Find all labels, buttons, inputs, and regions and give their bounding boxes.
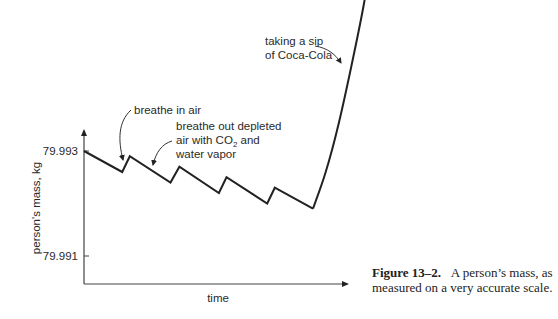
annotation-sip-line1: taking a sip xyxy=(265,35,323,47)
annotation-breathe-out-line2: air with CO2 and xyxy=(176,134,260,149)
annotation-sip-line2: of Coca-Cola xyxy=(265,49,333,61)
annotation-arrow-breathe-in xyxy=(120,110,131,160)
annotation-arrow-breathe-out xyxy=(153,141,172,165)
y-tick-label-0: 79.993 xyxy=(43,145,78,157)
annotation-breathe-out-line1: breathe out depleted xyxy=(176,120,282,132)
annotation-breathe-in: breathe in air xyxy=(134,104,201,116)
y-axis-label: person's mass, kg xyxy=(30,162,42,254)
series-line-sip xyxy=(313,0,374,209)
y-tick-label-1: 79.991 xyxy=(43,250,78,262)
annotation-breathe-out-line3: water vapor xyxy=(175,148,236,160)
x-axis-label: time xyxy=(207,292,229,304)
figure-label: Figure 13–2. xyxy=(372,265,441,280)
figure-caption: Figure 13–2. A person’s mass, as measure… xyxy=(372,265,558,295)
